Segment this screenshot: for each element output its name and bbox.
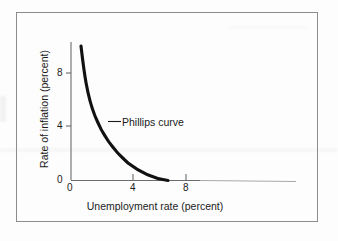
x-tick-label-4: 4 <box>130 182 136 193</box>
y-tick-label-0: 0 <box>57 174 63 185</box>
x-axis-line-extension <box>200 181 296 182</box>
y-axis-title: Rate of inflation (percent) <box>38 34 50 184</box>
phillips-curve-figure: 0 4 8 0 4 8 Phillips curve Unemployment … <box>0 0 338 241</box>
y-tick-label-4: 4 <box>57 120 63 131</box>
y-tick-label-8: 8 <box>57 67 63 78</box>
x-tick-label-0: 0 <box>67 182 73 193</box>
phillips-curve-line <box>81 46 168 181</box>
x-axis-title: Unemployment rate (percent) <box>40 200 270 212</box>
x-tick-label-8: 8 <box>183 182 189 193</box>
phillips-curve-annotation: Phillips curve <box>122 116 184 128</box>
